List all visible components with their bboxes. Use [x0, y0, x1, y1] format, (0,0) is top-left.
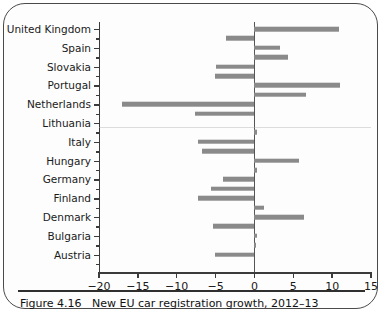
y-axis-category-label: Bulgaria	[47, 230, 91, 242]
y-tick-minor	[96, 95, 100, 96]
y-tick-major	[94, 104, 99, 105]
y-tick-minor	[96, 57, 100, 58]
y-tick-minor	[96, 226, 100, 227]
x-tick	[293, 272, 294, 278]
bar	[122, 102, 254, 107]
x-tick	[370, 272, 371, 278]
y-axis-category-label: Lithuania	[42, 117, 91, 129]
y-tick-minor	[96, 76, 100, 77]
scan-artifact-line	[99, 127, 371, 128]
y-tick-major	[94, 161, 99, 162]
caption-divider	[18, 290, 365, 292]
bar	[254, 243, 255, 248]
y-axis-category-label: Portugal	[48, 79, 92, 91]
y-axis-category-label: Hungary	[46, 155, 91, 167]
bar	[254, 130, 256, 135]
bar	[254, 168, 256, 173]
y-axis-category-label: Austria	[54, 249, 91, 261]
x-tick	[137, 272, 138, 278]
y-tick-minor	[96, 245, 100, 246]
y-tick-minor	[96, 264, 100, 265]
bar	[254, 55, 287, 60]
x-tick	[98, 272, 99, 278]
x-tick	[254, 272, 255, 278]
y-axis-line	[99, 22, 100, 272]
bar	[223, 177, 255, 182]
bar	[215, 74, 255, 79]
y-axis-category-label: Spain	[62, 42, 91, 54]
bar	[254, 83, 339, 88]
bar	[211, 187, 255, 192]
x-tick-label: 15	[364, 280, 378, 293]
y-tick-major	[94, 179, 99, 180]
bar	[226, 36, 255, 41]
y-axis-category-label: Germany	[43, 173, 91, 185]
bar	[254, 93, 305, 98]
y-tick-major	[94, 217, 99, 218]
y-axis-category-label: Slovakia	[47, 61, 91, 73]
y-axis-category-label: Finland	[53, 192, 91, 204]
figure-number: Figure 4.16	[20, 297, 82, 310]
bar	[202, 149, 255, 154]
bar	[195, 111, 255, 116]
x-tick	[215, 272, 216, 278]
x-axis-line	[99, 272, 371, 274]
y-axis-category-label: United Kingdom	[7, 23, 91, 35]
y-tick-major	[94, 198, 99, 199]
bar	[254, 158, 298, 163]
y-tick-minor	[96, 114, 100, 115]
y-tick-major	[94, 236, 99, 237]
bar	[213, 224, 254, 229]
y-tick-minor	[96, 38, 100, 39]
y-tick-major	[94, 142, 99, 143]
bar	[198, 140, 254, 145]
caption-spacer	[82, 297, 93, 310]
x-tick	[176, 272, 177, 278]
bar	[254, 215, 304, 220]
y-tick-minor	[96, 208, 100, 209]
y-axis-category-label: Netherlands	[27, 98, 91, 110]
y-tick-major	[94, 255, 99, 256]
bar-chart-plot: United KingdomSpainSlovakiaPortugalNethe…	[99, 22, 371, 272]
y-axis-category-label: Denmark	[43, 211, 91, 223]
bar	[198, 196, 254, 201]
y-tick-major	[94, 123, 99, 124]
bar	[254, 27, 339, 32]
caption-title: New EU car registration growth, 2012–13	[92, 297, 319, 310]
y-tick-major	[94, 67, 99, 68]
bar	[254, 234, 256, 239]
bar	[254, 46, 280, 51]
figure-caption: Figure 4.16 New EU car registration grow…	[20, 297, 319, 310]
bar	[216, 64, 254, 69]
figure-area: United KingdomSpainSlovakiaPortugalNethe…	[4, 4, 379, 286]
bar	[254, 205, 263, 210]
y-tick-major	[94, 85, 99, 86]
x-tick	[331, 272, 332, 278]
y-tick-minor	[96, 132, 100, 133]
y-tick-minor	[96, 189, 100, 190]
y-tick-major	[94, 29, 99, 30]
bar	[215, 252, 255, 257]
y-tick-major	[94, 48, 99, 49]
y-axis-category-label: Italy	[68, 136, 91, 148]
y-tick-minor	[96, 170, 100, 171]
y-tick-minor	[96, 151, 100, 152]
textbook-page-card: United KingdomSpainSlovakiaPortugalNethe…	[3, 3, 378, 309]
